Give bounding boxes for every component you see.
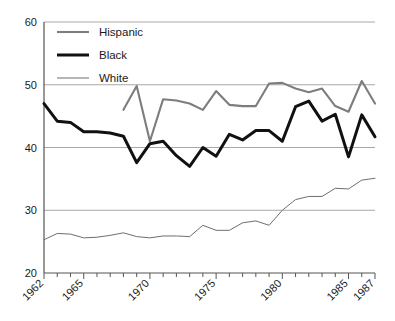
y-tick-label-60: 60 — [25, 16, 37, 28]
legend-label-hispanic: Hispanic — [99, 26, 143, 38]
y-tick-label-30: 30 — [25, 204, 37, 216]
legend-label-black: Black — [99, 49, 127, 61]
chart-container: 2030405060 1962196519701975198019851987 … — [0, 0, 395, 321]
legend-label-white: White — [99, 72, 128, 84]
y-tick-label-40: 40 — [25, 142, 37, 154]
y-tick-label-50: 50 — [25, 79, 37, 91]
y-tick-label-20: 20 — [25, 267, 37, 279]
line-chart: 2030405060 1962196519701975198019851987 … — [0, 0, 395, 321]
